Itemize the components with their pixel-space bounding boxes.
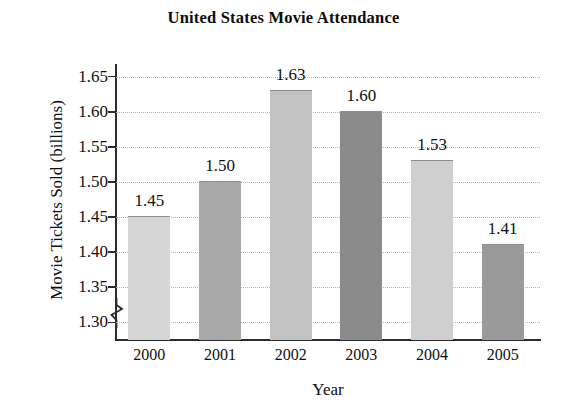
gridline [116, 182, 540, 183]
y-axis-tick-label: 1.55 [48, 138, 108, 155]
gridline [116, 252, 540, 253]
y-axis-title: Movie Tickets Sold (billions) [47, 50, 67, 350]
y-axis-tick-label: 1.50 [48, 173, 108, 190]
y-axis-tick [108, 76, 116, 78]
gridline [116, 287, 540, 288]
x-axis-tick-label: 2005 [473, 347, 533, 363]
y-axis-tick [108, 146, 116, 148]
bar[interactable] [411, 160, 453, 340]
bar-value-label: 1.41 [473, 220, 533, 237]
chart-container: United States Movie Attendance Movie Tic… [0, 0, 567, 417]
x-axis-title: Year [116, 380, 540, 400]
y-axis-tick [108, 251, 116, 253]
y-axis-tick [108, 181, 116, 183]
bar[interactable] [199, 181, 241, 340]
bar-value-label: 1.45 [119, 192, 179, 209]
x-axis-tick-label: 2000 [119, 347, 179, 363]
y-axis-tick [108, 322, 116, 324]
y-axis-tick-label: 1.40 [48, 243, 108, 260]
bar-value-label: 1.60 [331, 87, 391, 104]
gridline [116, 112, 540, 113]
y-axis-tick-label: 1.65 [48, 68, 108, 85]
x-axis-tick-label: 2004 [402, 347, 462, 363]
bar[interactable] [482, 244, 524, 340]
x-axis-tick-label: 2003 [331, 347, 391, 363]
bar[interactable] [270, 90, 312, 340]
gridline [116, 217, 540, 218]
gridline [116, 77, 540, 78]
gridline [116, 322, 540, 323]
y-axis-tick-label: 1.60 [48, 103, 108, 120]
y-axis-tick-label: 1.30 [48, 313, 108, 330]
bar-value-label: 1.53 [402, 136, 462, 153]
x-axis-tick-label: 2002 [261, 347, 321, 363]
chart-title: United States Movie Attendance [0, 8, 567, 28]
y-axis-tick-label: 1.45 [48, 208, 108, 225]
gridline [116, 147, 540, 148]
bar-value-label: 1.63 [261, 66, 321, 83]
bar-value-label: 1.50 [190, 157, 250, 174]
y-axis-tick [108, 216, 116, 218]
y-axis-tick [108, 286, 116, 288]
plot-area [116, 66, 540, 340]
y-axis-tick-label: 1.35 [48, 278, 108, 295]
bar[interactable] [340, 111, 382, 340]
x-axis-tick-label: 2001 [190, 347, 250, 363]
y-axis-tick [108, 111, 116, 113]
bar[interactable] [128, 216, 170, 340]
